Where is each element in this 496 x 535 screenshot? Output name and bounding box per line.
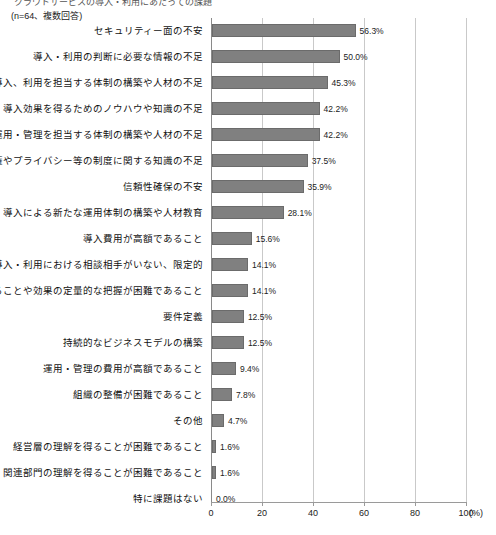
value-label: 42.2% <box>324 122 348 148</box>
value-label: 1.6% <box>220 434 239 460</box>
x-tick-mark <box>466 502 467 506</box>
category-label: 導入・利用の判断に必要な情報の不足 <box>33 44 203 70</box>
category-label: 著作権やプライバシー等の制度に関する知識の不足 <box>0 148 203 174</box>
bar-row: 導入・利用における相談相手がいない、限定的14.1% <box>0 252 496 278</box>
x-axis-unit-label: (%) <box>469 508 483 518</box>
value-label: 42.2% <box>324 96 348 122</box>
bar <box>212 336 244 349</box>
category-label: 関連部門の理解を得ることが困難であること <box>3 460 203 486</box>
x-tick-mark <box>211 502 212 506</box>
x-tick-mark <box>262 502 263 506</box>
bar-row: 組織の整備が困難であること7.8% <box>0 382 496 408</box>
x-tick-label: 60 <box>344 508 384 518</box>
value-label: 9.4% <box>240 356 259 382</box>
bar <box>212 310 244 323</box>
bar-row: 導入費用が高額であること15.6% <box>0 226 496 252</box>
bar-row: その他4.7% <box>0 408 496 434</box>
x-tick-label: 0 <box>191 508 231 518</box>
bar-row: 導入による新たな運用体制の構築や人材教育28.1% <box>0 200 496 226</box>
bar <box>212 232 252 245</box>
value-label: 15.6% <box>256 226 280 252</box>
value-label: 28.1% <box>288 200 312 226</box>
bar-chart: セキュリティー面の不安56.3%導入・利用の判断に必要な情報の不足50.0%導入… <box>0 0 496 535</box>
value-label: 7.8% <box>236 382 255 408</box>
category-label: 信頼性確保の不安 <box>123 174 203 200</box>
bar-row: 要件定義12.5% <box>0 304 496 330</box>
category-label: 運用・管理の費用が高額であること <box>43 356 203 382</box>
bar <box>212 258 248 271</box>
category-label: 経営層の理解を得ることが困難であること <box>13 434 203 460</box>
value-label: 45.3% <box>332 70 356 96</box>
x-tick-label: 80 <box>395 508 435 518</box>
bar-row: 著作権やプライバシー等の制度に関する知識の不足37.5% <box>0 148 496 174</box>
category-label: 持続的なビジネスモデルの構築 <box>63 330 203 356</box>
category-label: 組織の整備が困難であること <box>73 382 203 408</box>
bar-row: 経営層の理解を得ることが困難であること1.6% <box>0 434 496 460</box>
bar <box>212 414 224 427</box>
bar-row: 導入効果を得ることや効果の定量的な把握が困難であること14.1% <box>0 278 496 304</box>
category-label: 導入費用が高額であること <box>83 226 203 252</box>
value-label: 37.5% <box>312 148 336 174</box>
bar <box>212 154 308 167</box>
x-tick-label: 40 <box>293 508 333 518</box>
category-label: 導入、利用を担当する体制の構築や人材の不足 <box>0 70 203 96</box>
category-label: 導入による新たな運用体制の構築や人材教育 <box>3 200 203 226</box>
category-label: 運用・管理を担当する体制の構築や人材の不足 <box>0 122 203 148</box>
x-tick-mark <box>364 502 365 506</box>
bar <box>212 440 216 453</box>
category-label: その他 <box>173 408 203 434</box>
bar <box>212 180 304 193</box>
bar <box>212 102 320 115</box>
value-label: 12.5% <box>248 330 272 356</box>
bar <box>212 50 340 63</box>
category-label: 導入効果を得ることや効果の定量的な把握が困難であること <box>0 278 203 304</box>
value-label: 50.0% <box>344 44 368 70</box>
bar-row: 導入・利用の判断に必要な情報の不足50.0% <box>0 44 496 70</box>
bar-row: 関連部門の理解を得ることが困難であること1.6% <box>0 460 496 486</box>
value-label: 14.1% <box>252 278 276 304</box>
value-label: 35.9% <box>308 174 332 200</box>
value-label: 1.6% <box>220 460 239 486</box>
bar <box>212 388 232 401</box>
x-tick-label: 20 <box>242 508 282 518</box>
bar-row: 持続的なビジネスモデルの構築12.5% <box>0 330 496 356</box>
bar <box>212 284 248 297</box>
bar <box>212 466 216 479</box>
x-tick-mark <box>313 502 314 506</box>
value-label: 12.5% <box>248 304 272 330</box>
x-tick-mark <box>415 502 416 506</box>
category-label: セキュリティー面の不安 <box>94 18 203 44</box>
bar-row: セキュリティー面の不安56.3% <box>0 18 496 44</box>
bar <box>212 362 236 375</box>
value-label: 14.1% <box>252 252 276 278</box>
bar-row: 運用・管理の費用が高額であること9.4% <box>0 356 496 382</box>
category-label: 導入・利用における相談相手がいない、限定的 <box>0 252 203 278</box>
value-label: 56.3% <box>360 18 384 44</box>
bar <box>212 128 320 141</box>
bar-row: 運用・管理を担当する体制の構築や人材の不足42.2% <box>0 122 496 148</box>
bar-row: 信頼性確保の不安35.9% <box>0 174 496 200</box>
category-label: 導入効果を得るためのノウハウや知識の不足 <box>3 96 203 122</box>
bar-row: 導入効果を得るためのノウハウや知識の不足42.2% <box>0 96 496 122</box>
category-label: 要件定義 <box>163 304 203 330</box>
bar <box>212 24 356 37</box>
bar <box>212 76 328 89</box>
bar-row: 導入、利用を担当する体制の構築や人材の不足45.3% <box>0 70 496 96</box>
value-label: 4.7% <box>228 408 247 434</box>
bar <box>212 206 284 219</box>
